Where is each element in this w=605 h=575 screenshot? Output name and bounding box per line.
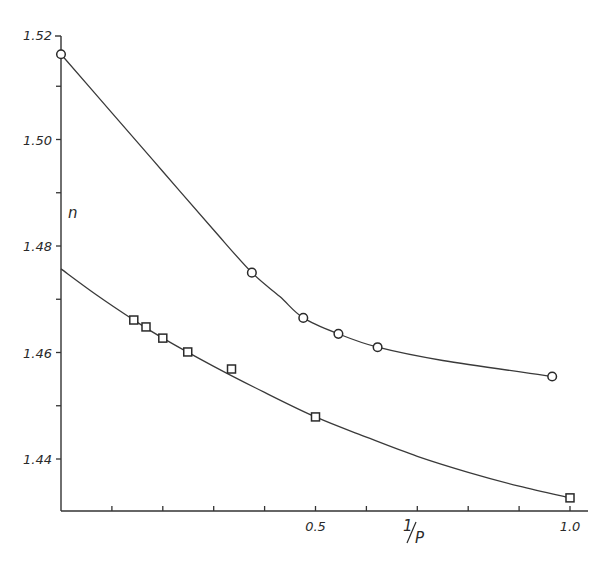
square-series-curve [61, 269, 570, 498]
axes [55, 36, 588, 511]
refractive-index-chart: 0.51.0 1.521.501.481.461.44 n 1 P [0, 0, 605, 575]
circle-series-curve [61, 54, 552, 376]
x-ticks [112, 506, 570, 511]
y-ticks [56, 86, 61, 459]
circle-data-point [373, 343, 382, 352]
y-tick-label: 1.50 [23, 133, 52, 148]
square-data-point [184, 348, 192, 356]
y-tick-label: 1.48 [23, 239, 52, 254]
circle-data-point [57, 50, 66, 59]
curves [61, 54, 570, 498]
x-tick-label: 0.5 [305, 519, 326, 534]
y-tick-labels: 1.521.501.481.461.44 [23, 28, 52, 467]
square-data-point [566, 494, 574, 502]
circle-data-point [299, 314, 308, 323]
y-tick-label: 1.44 [23, 452, 52, 467]
circle-data-point [548, 372, 557, 381]
circle-data-point [334, 330, 343, 339]
x-tick-label: 1.0 [560, 519, 581, 534]
square-data-point [228, 365, 236, 373]
x-axis-label: 1 P [403, 517, 425, 547]
square-data-point [312, 413, 320, 421]
square-data-point [130, 316, 138, 324]
x-tick-labels: 0.51.0 [305, 519, 580, 534]
y-tick-label: 1.46 [23, 346, 52, 361]
x-axis-label-denominator: P [415, 529, 425, 547]
y-tick-label: 1.52 [23, 28, 52, 43]
markers [57, 50, 574, 502]
circle-data-point [248, 268, 257, 277]
square-data-point [159, 334, 167, 342]
square-data-point [142, 323, 150, 331]
y-axis-label: n [68, 204, 78, 222]
